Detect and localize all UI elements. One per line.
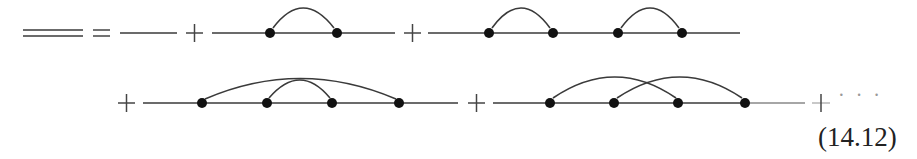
nested-rainbow-diagram (143, 79, 458, 109)
plus-sign (404, 24, 421, 42)
vertex (613, 28, 623, 38)
vertex (394, 98, 404, 108)
plus-sign (186, 24, 203, 42)
crossed-diagram (493, 77, 805, 108)
plus-sign (468, 94, 485, 112)
vertex (545, 98, 555, 108)
feynman-diagram-equation (0, 0, 917, 159)
one-self-energy-insertion (212, 8, 395, 38)
vertex (327, 98, 337, 108)
vertex (332, 28, 342, 38)
plus-sign (118, 94, 135, 112)
equals-sign (93, 30, 110, 36)
vertex (265, 28, 275, 38)
two-self-energy-insertions (428, 8, 740, 38)
equation-number: (14.12) (818, 122, 897, 153)
continuation-ellipsis: · · · (838, 84, 883, 107)
vertex (548, 28, 558, 38)
vertex (609, 98, 619, 108)
vertex (197, 98, 207, 108)
dressed-propagator (23, 30, 83, 36)
vertex (677, 28, 687, 38)
vertex (262, 98, 272, 108)
vertex (673, 98, 683, 108)
vertex (740, 98, 750, 108)
plus-sign (812, 94, 830, 112)
vertex (484, 28, 494, 38)
